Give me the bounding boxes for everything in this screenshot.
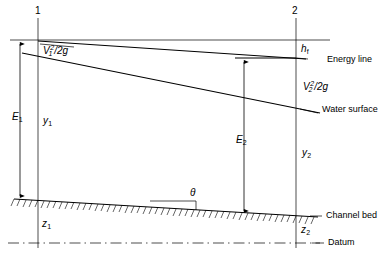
water-surface-label: Water surface — [322, 105, 378, 114]
section-label-1: 1 — [35, 6, 41, 16]
specific-energy-2-label: E2 — [236, 135, 247, 146]
water-surface-line — [22, 53, 320, 113]
theta-label: θ — [190, 188, 195, 198]
section-label-2: 2 — [292, 6, 298, 16]
elevation-1-label: z1 — [42, 219, 51, 230]
head-loss-label: hf — [301, 44, 309, 55]
depth-1-label: y1 — [43, 116, 52, 127]
depth-2-label: y2 — [302, 148, 311, 159]
channel-bed-hatch — [11, 199, 314, 224]
energy-line — [38, 41, 306, 59]
elevation-2-label: z2 — [301, 225, 310, 236]
channel-bed-label: Channel bed — [326, 211, 377, 220]
velocity-head-2-label: V22/2g — [303, 80, 328, 93]
datum-label: Datum — [328, 238, 355, 247]
energy-line-label: Energy line — [327, 55, 372, 64]
velocity-head-1-label: V12/2g — [43, 44, 68, 57]
water-surface-leader — [300, 109, 318, 113]
diagram-canvas — [0, 0, 385, 259]
specific-energy-1-label: E1 — [12, 112, 23, 123]
energy-diagram: 1 2 V12/2g V22/2g hf Energy line Water s… — [0, 0, 385, 259]
